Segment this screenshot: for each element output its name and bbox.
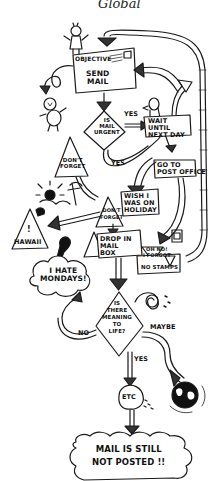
mondays-label: I HATE MONDAYS! — [40, 267, 86, 283]
dont-forget-label-1: DON'T FORGET — [60, 157, 85, 169]
oh-no-label: OH NO! I FORGOT — [143, 246, 171, 258]
hawaii-label: HAWAII — [14, 239, 42, 246]
result-label: MAIL IS STILL NOT POSTED !! — [92, 443, 165, 469]
edge-label-yes-down: YES — [111, 160, 125, 167]
hawaii-exclaim: ! — [27, 226, 31, 233]
stick-figure-icon — [64, 23, 88, 54]
etc-label: ETC — [122, 394, 136, 401]
arrow — [58, 298, 96, 339]
figure-silhouette-icon — [36, 208, 44, 216]
wait-label: WAIT UNTIL NEXT DAY — [148, 118, 185, 139]
chick-figure-icon — [40, 98, 66, 131]
arrow — [134, 158, 156, 190]
sun-icon — [36, 181, 70, 204]
arrow — [172, 86, 186, 118]
edge-label-yes-meaning: YES — [134, 356, 148, 363]
holiday-label: WISH I WAS ON HOLIDAY — [124, 193, 157, 214]
swirl-arrow-left — [40, 66, 73, 94]
edge-label-no: NO — [78, 330, 89, 337]
urgent-label: IS MAIL URGENT — [94, 117, 120, 135]
arrowhead — [110, 279, 127, 290]
arrow — [128, 352, 132, 380]
bird-figure-icon — [143, 98, 160, 118]
arrowhead — [48, 216, 60, 230]
arrow — [125, 124, 142, 127]
arrow — [58, 212, 102, 226]
page-title: Global — [98, 0, 141, 11]
globe-icon — [170, 382, 205, 413]
arrowhead — [178, 80, 192, 92]
edge-label-yes-right: YES — [124, 111, 138, 118]
dont-forget-label-2: DON'T FORGET — [100, 207, 123, 221]
arrow — [130, 410, 134, 428]
swirl-icon — [135, 293, 170, 309]
arrow — [142, 332, 184, 382]
no-stamps-label: NO STAMPS — [141, 264, 178, 271]
post-office-label: GO TO POST OFFICE — [157, 162, 206, 176]
meaning-label: IS THERE MEANING TO LIFE? — [102, 300, 132, 335]
edge-label-maybe: MAYBE — [150, 324, 175, 331]
flowchart-canvas: Global OBJECTIVE SEND MAIL IS MAIL URGEN… — [0, 0, 217, 481]
arrowhead — [97, 102, 111, 111]
drop-label: DROP IN MAIL BOX — [100, 236, 132, 257]
dust-particles — [144, 400, 153, 409]
mailbox-icon — [172, 230, 182, 242]
objective-label: OBJECTIVE — [75, 55, 111, 62]
arrowhead — [166, 145, 176, 152]
send-mail-label: SEND MAIL — [86, 70, 109, 86]
arrow — [140, 67, 182, 92]
